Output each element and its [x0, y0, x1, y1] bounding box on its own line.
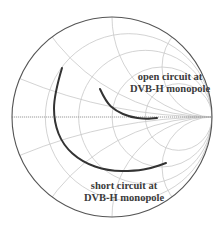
short-circuit-label-line1: short circuit at [72, 180, 176, 192]
reactance-arc [162, 17, 224, 117]
open-circuit-label-line2: DVB-H monopole [118, 83, 222, 95]
short-circuit-label-line2: DVB-H monopole [72, 192, 176, 204]
reactance-arc [12, 117, 224, 231]
open-circuit-label: open circuit at DVB-H monopole [118, 71, 222, 95]
short-circuit-label: short circuit at DVB-H monopole [72, 180, 176, 204]
open-circuit-label-line1: open circuit at [118, 71, 222, 83]
